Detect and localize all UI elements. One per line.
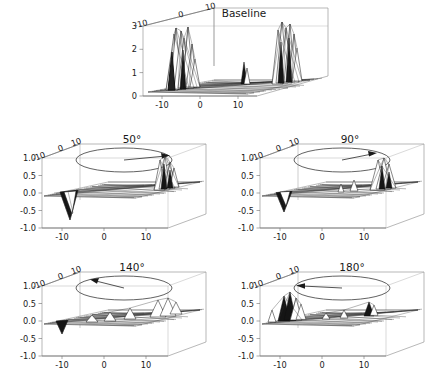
panel-rot140: 140° -1.0 -0.5 0.0 0.5 1.0 [4, 258, 219, 380]
xtick-baseline-1: 0 [197, 100, 202, 110]
x-axis-rot50: -10 0 10 [55, 228, 151, 242]
ytick-rot140-2: 10 [69, 263, 82, 276]
z-axis-rot180: -1.0 -0.5 0.0 0.5 1.0 [238, 281, 260, 361]
panel-title-rot50: 50° [123, 133, 142, 145]
ztick-baseline-2: 2 [132, 44, 137, 54]
trough-left-rot90 [276, 191, 292, 212]
xtick-rot180-2: 10 [359, 360, 369, 370]
ztick-rot180-3: 0.5 [241, 299, 254, 309]
x-axis-rot90: -10 0 10 [273, 228, 369, 242]
z-axis-rot140: -1.0 -0.5 0.0 0.5 1.0 [20, 281, 42, 361]
panel-title-baseline: Baseline [222, 7, 267, 19]
xtick-rot140-0: -10 [55, 360, 68, 370]
ytick-rot50-2: 10 [69, 135, 82, 148]
ztick-rot50-2: 0.0 [23, 188, 36, 198]
ytick-rot90-0: -10 [249, 149, 265, 163]
xtick-rot50-2: 10 [141, 232, 151, 242]
ytick-baseline-0: -10 [133, 17, 148, 30]
ztick-rot50-0: -1.0 [20, 223, 36, 233]
panel-title-rot180: 180° [339, 261, 364, 273]
ztick-rot90-0: -1.0 [238, 223, 254, 233]
peak-cluster-right-baseline [272, 22, 302, 84]
ytick-rot90-2: 10 [287, 135, 300, 148]
panel-rot90: 90° -1.0 -0.5 0.0 0.5 1.0 - [222, 130, 437, 252]
peak-cluster-left-baseline [166, 27, 200, 90]
x-axis-baseline: -10 0 10 [155, 96, 243, 110]
trough-left-rot140 [56, 320, 68, 334]
ytick-rot140-0: -10 [31, 277, 47, 291]
peak-mid-baseline [241, 62, 250, 84]
ztick-rot50-1: -0.5 [20, 206, 36, 216]
xtick-rot180-1: 0 [319, 360, 324, 370]
peak-cluster-right-rot50 [154, 156, 179, 190]
panel-rot50: 50° -1.0 -0.5 0.0 0.5 1.0 [4, 130, 219, 252]
panel-title-rot140: 140° [119, 261, 144, 273]
ztick-rot180-2: 0.0 [241, 316, 254, 326]
ztick-rot180-0: -1.0 [238, 351, 254, 361]
ytick-baseline-2: 10 [204, 0, 217, 12]
rotation-dial-rot50 [76, 148, 172, 172]
z-axis-rot50: -1.0 -0.5 0.0 0.5 1.0 [20, 153, 42, 233]
ytick-rot180-2: 10 [287, 263, 300, 276]
ztick-rot90-1: -0.5 [238, 206, 254, 216]
xtick-rot140-2: 10 [141, 360, 151, 370]
ztick-baseline-0: 0 [132, 91, 137, 101]
panel-rot180: 180° -1.0 -0.5 0.0 0.5 1.0 [222, 258, 437, 380]
x-axis-rot140: -10 0 10 [55, 356, 151, 370]
ztick-baseline-1: 1 [132, 68, 137, 78]
rotation-dial-rot180 [294, 276, 390, 300]
y-axis-rot180: -10 0 10 [249, 263, 301, 291]
xtick-rot140-1: 0 [101, 360, 106, 370]
xtick-baseline-0: -10 [155, 100, 168, 110]
ytick-rot50-0: -10 [31, 149, 47, 163]
xtick-rot180-0: -10 [273, 360, 286, 370]
rotation-dial-rot140 [76, 276, 172, 300]
x-axis-rot180: -10 0 10 [273, 356, 369, 370]
ztick-rot140-3: 0.5 [23, 299, 36, 309]
z-axis-baseline: 0 1 2 3 [132, 21, 143, 101]
ztick-rot140-0: -1.0 [20, 351, 36, 361]
ztick-rot140-2: 0.0 [23, 316, 36, 326]
y-axis-rot90: -10 0 10 [249, 135, 301, 163]
ztick-rot180-1: -0.5 [238, 334, 254, 344]
panel-baseline: Baseline 0 1 2 3 -10 0 10 [96, 4, 346, 124]
ztick-rot90-3: 0.5 [241, 171, 254, 181]
y-axis-rot140: -10 0 10 [31, 263, 83, 291]
z-axis-rot90: -1.0 -0.5 0.0 0.5 1.0 [238, 153, 260, 233]
xtick-rot50-0: -10 [55, 232, 68, 242]
peak-cluster-left-rot180 [268, 292, 306, 322]
xtick-rot90-1: 0 [319, 232, 324, 242]
y-axis-rot50: -10 0 10 [31, 135, 83, 163]
ztick-rot90-2: 0.0 [241, 188, 254, 198]
ztick-rot50-3: 0.5 [23, 171, 36, 181]
ytick-rot180-0: -10 [249, 277, 265, 291]
xtick-rot90-0: -10 [273, 232, 286, 242]
ztick-rot140-1: -0.5 [20, 334, 36, 344]
xtick-rot50-1: 0 [101, 232, 106, 242]
panel-title-rot90: 90° [341, 133, 360, 145]
ytick-baseline-1: 0 [177, 9, 184, 20]
xtick-rot90-2: 10 [359, 232, 369, 242]
xtick-baseline-2: 10 [233, 100, 243, 110]
